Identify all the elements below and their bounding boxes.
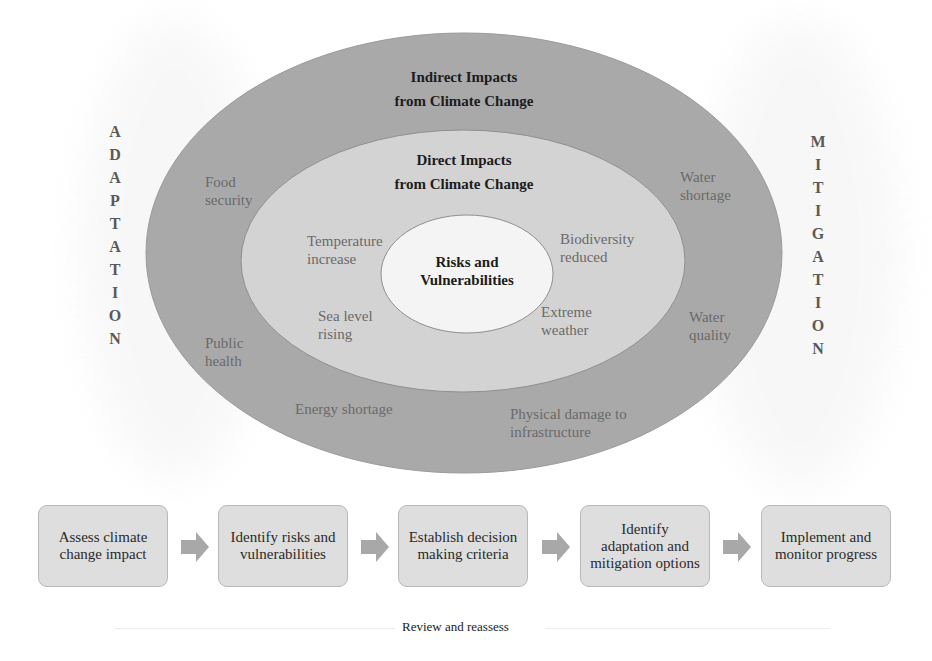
- middle-item-line2: weather: [541, 321, 592, 339]
- letter: T: [105, 258, 125, 281]
- outer-item-food-security: Food security: [205, 173, 252, 209]
- outer-item-water-quality: Water quality: [689, 308, 731, 344]
- step-identify-risks: Identify risks and vulnerabilities: [218, 505, 348, 587]
- letter: I: [808, 153, 828, 176]
- letter: A: [105, 120, 125, 143]
- core-title-line1: Risks and: [397, 253, 537, 271]
- indirect-impacts-title-line1: Indirect Impacts: [364, 65, 564, 89]
- right-arrow-icon: [361, 532, 389, 562]
- middle-item-line2: reduced: [560, 248, 634, 266]
- outer-item-line2: health: [205, 352, 243, 370]
- letter: A: [105, 235, 125, 258]
- outer-item-line1: Food: [205, 173, 252, 191]
- middle-item-line1: Extreme: [541, 303, 592, 321]
- middle-item-line2: increase: [307, 250, 383, 268]
- middle-item-extreme-weather: Extreme weather: [541, 303, 592, 339]
- letter: I: [105, 281, 125, 304]
- middle-item-line1: Sea level: [318, 307, 373, 325]
- letter: G: [808, 222, 828, 245]
- step-assess-climate-change-impact: Assess climate change impact: [38, 505, 168, 587]
- middle-item-line2: rising: [318, 325, 373, 343]
- indirect-impacts-title: Indirect Impacts from Climate Change: [364, 65, 564, 113]
- letter: N: [808, 337, 828, 360]
- outer-item-line2: shortage: [680, 186, 731, 204]
- letter: I: [808, 291, 828, 314]
- step-implement-monitor: Implement and monitor progress: [761, 505, 891, 587]
- letter: P: [105, 189, 125, 212]
- right-arrow-icon: [542, 532, 570, 562]
- mitigation-vertical-label: M I T I G A T I O N: [808, 130, 828, 360]
- letter: O: [105, 304, 125, 327]
- outer-item-line1: Public: [205, 334, 243, 352]
- letter: D: [105, 143, 125, 166]
- letter: A: [105, 166, 125, 189]
- right-arrow-icon: [723, 532, 751, 562]
- right-arrow-icon: [181, 532, 209, 562]
- step-line2: monitor progress: [775, 546, 877, 563]
- outer-item-physical-damage: Physical damage to infrastructure: [510, 405, 627, 441]
- letter: N: [105, 327, 125, 350]
- letter: T: [808, 176, 828, 199]
- letter: A: [808, 245, 828, 268]
- middle-item-sea-level-rising: Sea level rising: [318, 307, 373, 343]
- step-line2: making criteria: [409, 546, 518, 563]
- step-line2: adaptation and: [590, 538, 700, 555]
- feedback-loop-line-right: [545, 628, 830, 629]
- letter: O: [808, 314, 828, 337]
- step-establish-decision-criteria: Establish decision making criteria: [398, 505, 528, 587]
- direct-impacts-title-line1: Direct Impacts: [364, 148, 564, 172]
- outer-item-water-shortage: Water shortage: [680, 168, 731, 204]
- indirect-impacts-title-line2: from Climate Change: [364, 89, 564, 113]
- middle-item-line1: Temperature: [307, 232, 383, 250]
- outer-item-line1: Energy shortage: [295, 400, 393, 418]
- outer-item-public-health: Public health: [205, 334, 243, 370]
- middle-item-biodiversity-reduced: Biodiversity reduced: [560, 230, 634, 266]
- feedback-loop-line-left: [115, 628, 395, 629]
- step-identify-adaptation-options: Identify adaptation and mitigation optio…: [580, 505, 710, 587]
- direct-impacts-title: Direct Impacts from Climate Change: [364, 148, 564, 196]
- step-line1: Implement and: [775, 529, 877, 546]
- outer-item-line2: security: [205, 191, 252, 209]
- middle-item-temperature-increase: Temperature increase: [307, 232, 383, 268]
- outer-item-line1: Water: [689, 308, 731, 326]
- core-title-line2: Vulnerabilities: [397, 271, 537, 289]
- outer-item-line1: Physical damage to: [510, 405, 627, 423]
- adaptation-vertical-label: A D A P T A T I O N: [105, 120, 125, 350]
- step-line1: Identify risks and: [231, 529, 336, 546]
- letter: I: [808, 199, 828, 222]
- letter: M: [808, 130, 828, 153]
- outer-item-energy-shortage: Energy shortage: [295, 400, 393, 418]
- step-line1: Establish decision: [409, 529, 518, 546]
- step-line1: Assess climate: [59, 529, 148, 546]
- middle-item-line1: Biodiversity: [560, 230, 634, 248]
- step-line2: vulnerabilities: [231, 546, 336, 563]
- direct-impacts-title-line2: from Climate Change: [364, 172, 564, 196]
- outer-item-line1: Water: [680, 168, 731, 186]
- risks-vulnerabilities-title: Risks and Vulnerabilities: [397, 253, 537, 289]
- outer-item-line2: quality: [689, 326, 731, 344]
- letter: T: [105, 212, 125, 235]
- letter: T: [808, 268, 828, 291]
- step-line3: mitigation options: [590, 555, 700, 572]
- step-line1: Identify: [590, 521, 700, 538]
- step-line2: change impact: [59, 546, 148, 563]
- outer-item-line2: infrastructure: [510, 423, 627, 441]
- review-and-reassess-label: Review and reassess: [402, 619, 509, 635]
